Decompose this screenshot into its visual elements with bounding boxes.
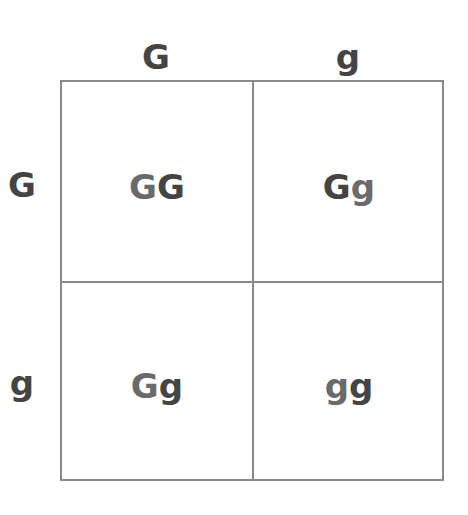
cell-Gg-bottom: Gg bbox=[62, 283, 252, 482]
allele: g bbox=[349, 366, 373, 406]
genotype: Gg bbox=[323, 170, 375, 204]
cell-GG: GG bbox=[62, 82, 252, 281]
allele: g bbox=[351, 167, 375, 207]
cell-gg: gg bbox=[254, 283, 444, 482]
row-allele-1: G bbox=[2, 168, 42, 202]
genotype: gg bbox=[325, 369, 374, 403]
allele: g bbox=[159, 366, 183, 406]
genotype: GG bbox=[129, 170, 185, 204]
genotype: Gg bbox=[131, 369, 183, 403]
allele: G bbox=[157, 167, 185, 207]
row-allele-2: g bbox=[2, 366, 42, 400]
cell-Gg-top: Gg bbox=[254, 82, 444, 281]
column-allele-1: G bbox=[60, 40, 252, 74]
allele: G bbox=[131, 366, 159, 406]
column-allele-2: g bbox=[252, 40, 444, 74]
punnett-grid: GG Gg Gg gg bbox=[60, 80, 444, 481]
allele: g bbox=[325, 366, 349, 406]
allele: G bbox=[323, 167, 351, 207]
allele: G bbox=[129, 167, 157, 207]
